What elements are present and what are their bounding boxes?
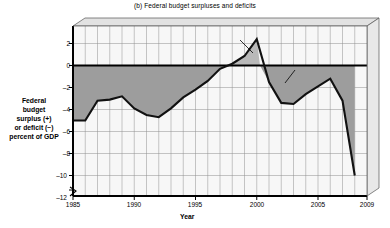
chart-svg bbox=[0, 0, 390, 228]
chart-container: (b) Federal budget surpluses and deficit… bbox=[0, 0, 390, 228]
plot-3d-top-face bbox=[73, 18, 379, 26]
plot-3d-right-face bbox=[367, 18, 379, 196]
